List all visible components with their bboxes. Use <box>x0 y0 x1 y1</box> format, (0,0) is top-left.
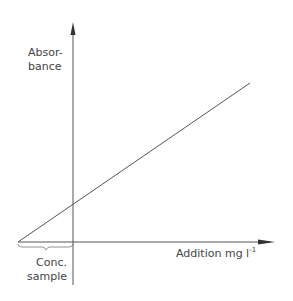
x-axis-label: Addition mg l-1 <box>176 243 256 261</box>
y-axis-label: Absor- bance <box>28 46 63 74</box>
x-axis-unit-exponent: -1 <box>249 246 256 254</box>
y-axis-label-line2: bance <box>28 60 63 74</box>
y-axis-arrow-icon <box>71 22 76 35</box>
calibration-line <box>18 83 250 242</box>
conc-sample-label: Conc. sample <box>21 256 67 284</box>
conc-label-line2: sample <box>21 270 67 284</box>
conc-sample-brace <box>18 244 73 250</box>
y-axis-label-line1: Absor- <box>28 46 63 60</box>
conc-label-line1: Conc. <box>21 256 67 270</box>
x-axis-label-text: Addition mg l <box>176 247 249 260</box>
x-axis-arrow-icon <box>258 240 275 245</box>
